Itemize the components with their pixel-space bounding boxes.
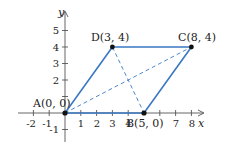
x-tick-label: 3	[109, 118, 115, 129]
y-axis-label: y	[57, 6, 65, 19]
point-d	[110, 45, 115, 50]
point-c-label: C(8, 4)	[178, 31, 216, 44]
x-tick-label: 2	[94, 118, 100, 129]
coordinate-diagram: -2 -1 1 2 3 4 7 8 5 4 3 2 -1 y x A(0, 0)…	[0, 0, 230, 146]
y-tick-label: 3	[53, 58, 59, 69]
x-tick-label: 1	[78, 118, 84, 129]
point-c	[189, 45, 194, 50]
x-axis-label: x	[198, 117, 205, 130]
point-a	[62, 110, 67, 115]
point-b	[141, 110, 146, 115]
diagonal-bd	[112, 47, 144, 113]
y-tick-label: 2	[53, 75, 59, 86]
point-a-label: A(0, 0)	[32, 97, 71, 110]
y-tick-label: 4	[53, 42, 59, 53]
x-tick-label: 8	[189, 118, 195, 129]
y-tick-label: -1	[49, 124, 59, 135]
x-tick-label: -2	[26, 118, 36, 129]
point-d-label: D(3, 4)	[91, 31, 129, 44]
x-tick-label: 7	[173, 118, 179, 129]
y-tick-label: 5	[53, 25, 59, 36]
point-b-label: B(5, 0)	[126, 117, 164, 130]
